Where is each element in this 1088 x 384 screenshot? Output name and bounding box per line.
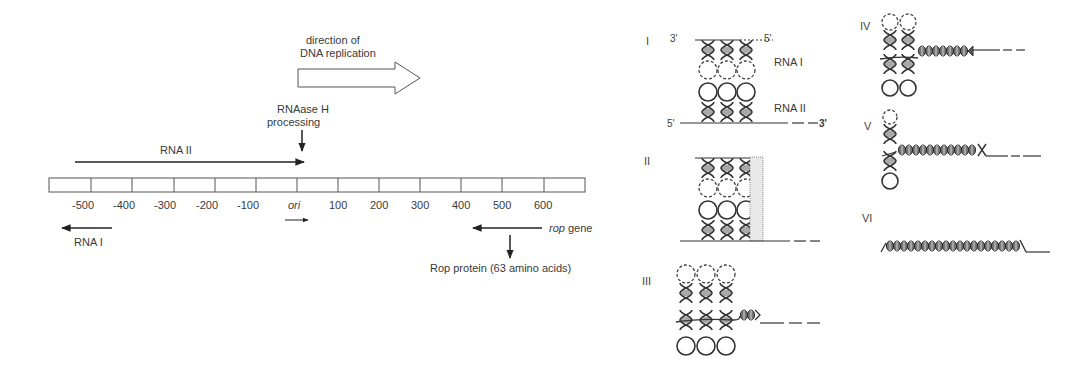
tick-label: 300 (411, 199, 429, 211)
tick-label: 200 (370, 199, 388, 211)
tick-label: -400 (113, 199, 135, 211)
stage-iv-structure (880, 14, 1025, 96)
stage-i-3prime-top: 3' (670, 33, 677, 45)
stage-iii-numeral: III (642, 275, 651, 287)
replication-direction-label-1: direction of (306, 34, 360, 46)
stage-ii-structure (680, 157, 820, 241)
rna-ii-label: RNA II (160, 144, 192, 156)
stage-i-numeral: I (646, 35, 649, 47)
rna-i-structure-label: RNA I (774, 56, 803, 68)
rnaase-h-label-1: RNAase H (277, 103, 329, 115)
stage-ii-numeral: II (644, 155, 650, 167)
stage-i-5prime-bottom: 5' (667, 118, 674, 130)
rnaase-h-label-2: processing (267, 116, 320, 128)
replication-direction-label-2: DNA replication (300, 47, 376, 59)
tick-label: 400 (452, 199, 470, 211)
sequence-ruler (49, 178, 585, 192)
stage-iii-structure (676, 265, 820, 355)
stage-v-numeral: V (864, 120, 871, 132)
ori-label: ori (288, 199, 300, 211)
tick-label: -200 (196, 199, 218, 211)
tick-label: 500 (493, 199, 511, 211)
stage-vi-structure (881, 240, 1050, 252)
stage-vi-numeral: VI (862, 212, 872, 224)
tick-label: 100 (329, 199, 347, 211)
stage-iv-numeral: IV (860, 20, 870, 32)
rop-gene-label: rop gene (549, 222, 592, 234)
tick-label: -500 (72, 199, 94, 211)
rop-protein-label: Rop protein (63 amino acids) (430, 262, 571, 274)
tick-label: -300 (154, 199, 176, 211)
rna-i-label: RNA I (74, 236, 103, 248)
rna-ii-structure-label: RNA II (774, 102, 806, 114)
diagram-canvas (0, 0, 1088, 384)
stage-i-5prime-top: 5' (764, 33, 771, 45)
replication-direction-arrow (298, 62, 420, 94)
rop-gene-italic: rop (549, 222, 565, 234)
tick-label: -100 (237, 199, 259, 211)
stage-v-structure (882, 110, 1041, 189)
stage-i-3prime-bottom: 3' (819, 118, 827, 130)
tick-label: 600 (534, 199, 552, 211)
rop-gene-suffix: gene (565, 222, 593, 234)
